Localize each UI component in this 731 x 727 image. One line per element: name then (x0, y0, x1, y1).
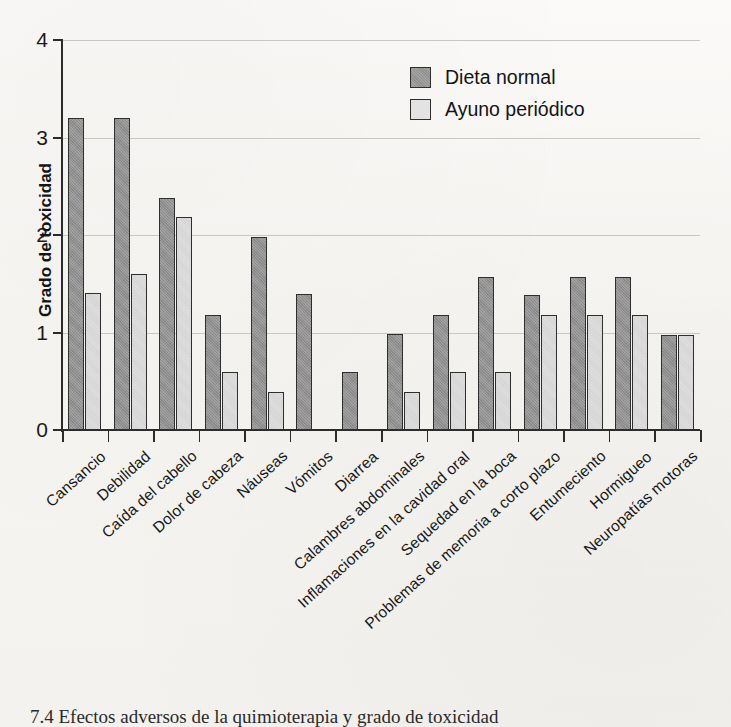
bar (495, 372, 511, 430)
legend-label-1: Dieta normal (445, 66, 556, 89)
bar (450, 372, 466, 430)
y-tick-0 (53, 429, 62, 431)
x-tick-11 (563, 430, 565, 442)
bar (570, 277, 586, 430)
bar (632, 315, 648, 430)
bar (541, 315, 557, 430)
x-tick-8 (427, 430, 429, 442)
x-tick-2 (153, 430, 155, 442)
bar (222, 372, 238, 430)
y-tick-label-0: 0 (24, 419, 48, 440)
bar (114, 118, 130, 430)
legend-label-2: Ayuno periódico (445, 98, 585, 121)
legend-item-1: Dieta normal (410, 66, 585, 89)
bar (615, 277, 631, 430)
x-label-1: Cansancio (43, 448, 108, 509)
bar (433, 315, 449, 430)
bar (661, 335, 677, 430)
bar (678, 335, 694, 430)
bar (131, 274, 147, 430)
x-tick-3 (199, 430, 201, 442)
x-tick-5 (290, 430, 292, 442)
bar-chart: 01234 Grado de toxicidad CansancioDebili… (0, 0, 731, 727)
x-tick-4 (244, 430, 246, 442)
legend-item-2: Ayuno periódico (410, 98, 585, 121)
bar (404, 392, 420, 430)
bar (296, 294, 312, 430)
dark-gray-swatch (410, 67, 431, 88)
bar (478, 277, 494, 430)
x-tick-0 (62, 430, 64, 442)
bar (268, 392, 284, 430)
x-tick-14 (700, 430, 702, 442)
bar (587, 315, 603, 430)
x-tick-7 (381, 430, 383, 442)
x-tick-9 (472, 430, 474, 442)
bar (68, 118, 84, 430)
x-tick-1 (108, 430, 110, 442)
bar (205, 315, 221, 430)
bar (85, 293, 101, 430)
bar (159, 198, 175, 430)
light-gray-swatch (410, 99, 431, 120)
y-axis-title-text: Grado de toxicidad (36, 163, 56, 317)
bar (176, 217, 192, 430)
bar (251, 237, 267, 430)
plot-area (62, 40, 700, 430)
x-tick-6 (335, 430, 337, 442)
y-tick-label-4: 4 (24, 29, 48, 50)
x-tick-13 (654, 430, 656, 442)
x-label-6: Vómitos (283, 448, 336, 497)
bar (387, 334, 403, 430)
x-tick-10 (518, 430, 520, 442)
legend: Dieta normalAyuno periódico (410, 66, 585, 130)
bar (524, 295, 540, 430)
figure-caption: 7.4 Efectos adversos de la quimioterapia… (30, 706, 710, 727)
y-axis-title: Grado de toxicidad (34, 130, 58, 350)
x-tick-12 (609, 430, 611, 442)
y-tick-4 (53, 39, 62, 41)
bar (342, 372, 358, 430)
